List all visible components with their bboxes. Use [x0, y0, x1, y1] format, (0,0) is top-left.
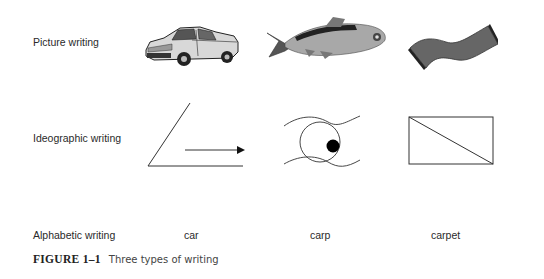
- row-label-alphabetic: Alphabetic writing: [33, 229, 115, 241]
- figure-caption: FIGURE 1–1Three types of writing: [33, 253, 219, 265]
- row-label-picture: Picture writing: [33, 36, 99, 48]
- alphabetic-word-carpet: carpet: [431, 229, 460, 241]
- alphabetic-word-car: car: [184, 229, 199, 241]
- car-picture-icon: [142, 22, 242, 67]
- carpet-picture-icon: [408, 18, 498, 73]
- car-ideogram-icon: [145, 100, 245, 170]
- figure-caption-text: Three types of writing: [109, 254, 219, 265]
- carp-ideogram-icon: [280, 112, 365, 172]
- carpet-ideogram-icon: [407, 115, 495, 167]
- carp-picture-icon: [265, 13, 390, 65]
- row-label-ideographic: Ideographic writing: [33, 132, 121, 144]
- alphabetic-word-carp: carp: [310, 229, 330, 241]
- figure-number: FIGURE 1–1: [33, 253, 101, 265]
